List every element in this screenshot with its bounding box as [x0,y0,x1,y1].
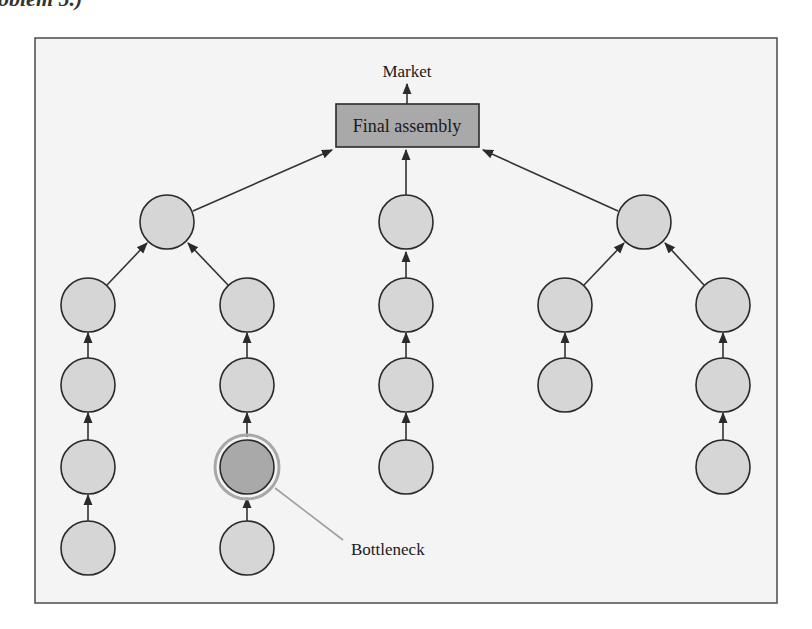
bottleneck-label: Bottleneck [351,540,425,559]
subassembly-node-c [617,195,671,249]
process-node [61,440,115,494]
bottleneck-node [220,440,274,494]
process-node [379,278,433,332]
market-label: Market [382,62,431,81]
process-node [220,521,274,575]
process-node [379,440,433,494]
process-node [61,521,115,575]
process-node [61,278,115,332]
process-node [696,358,750,412]
process-node [538,358,592,412]
process-node [696,440,750,494]
process-node [538,278,592,332]
subassembly-node-a [140,195,194,249]
subassembly-node-b [379,195,433,249]
process-node [696,278,750,332]
process-node [379,358,433,412]
process-node [220,358,274,412]
process-node [220,278,274,332]
final-assembly-label: Final assembly [353,116,462,136]
process-node [61,358,115,412]
assembly-flow-diagram: Market Final assembly Bot [0,0,812,629]
